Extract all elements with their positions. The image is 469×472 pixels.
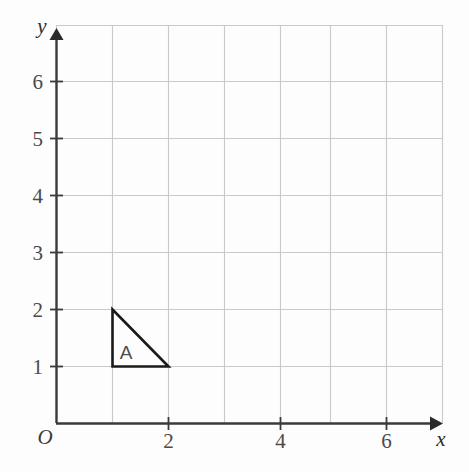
y-tick-label-3: 3 xyxy=(33,241,44,265)
horizontal-gridlines xyxy=(56,26,442,367)
coordinate-plane-svg: 2 4 6 1 2 3 4 5 6 O x y A xyxy=(0,0,469,472)
y-tick-label-5: 5 xyxy=(33,127,44,151)
x-axis-label: x xyxy=(435,427,446,451)
origin-label: O xyxy=(37,425,52,449)
x-tick-label-6: 6 xyxy=(381,429,392,453)
y-axis-label: y xyxy=(35,14,47,38)
coordinate-grid-figure: 2 4 6 1 2 3 4 5 6 O x y A xyxy=(0,0,469,472)
x-tick-label-4: 4 xyxy=(275,429,286,453)
y-tick-label-1: 1 xyxy=(33,355,44,379)
x-tick-label-2: 2 xyxy=(163,429,174,453)
y-tick-label-4: 4 xyxy=(33,184,44,208)
y-tick-label-2: 2 xyxy=(33,298,44,322)
y-tick-label-6: 6 xyxy=(33,70,44,94)
y-axis xyxy=(50,28,64,423)
triangle-a-label: A xyxy=(120,342,133,363)
vertical-gridlines xyxy=(57,25,443,423)
